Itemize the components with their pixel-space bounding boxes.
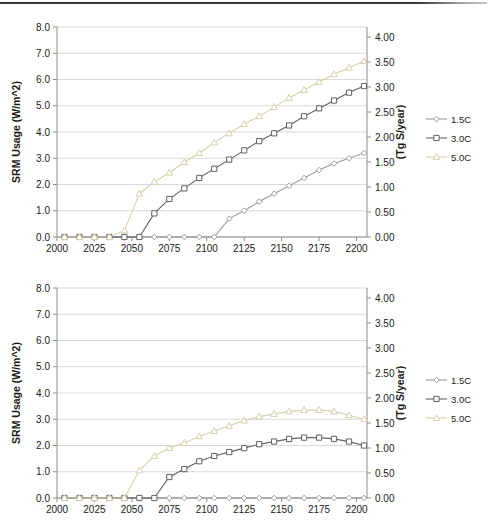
legend-label: 3.0C	[451, 133, 471, 144]
y-left-tick-label: 8.0	[36, 22, 50, 33]
y-left-tick-label: 2.0	[36, 440, 50, 451]
y-right-tick-label: 2.00	[375, 393, 395, 404]
y-left-tick-label: 3.0	[36, 414, 50, 425]
page: 0.01.02.03.04.05.06.07.08.00.000.501.001…	[0, 0, 488, 523]
x-tick-label: 2050	[121, 243, 144, 254]
y-axis-left: 0.01.02.03.04.05.06.07.08.0	[36, 283, 57, 504]
legend: 1.5C3.0C5.0C	[426, 114, 471, 163]
y-left-axis-title: SRM Usage (W/m^2)	[10, 81, 22, 183]
legend-item-1.5C: 1.5C	[426, 114, 471, 125]
legend-label: 5.0C	[451, 413, 471, 424]
series-1.5C	[62, 150, 367, 240]
legend-item-3.0C: 3.0C	[426, 394, 471, 405]
x-tick-label: 2175	[308, 243, 331, 254]
y-right-tick-label: 3.50	[375, 57, 395, 68]
y-right-tick-label: 3.00	[375, 82, 395, 93]
series-markers-1.5C	[62, 150, 367, 240]
y-right-tick-label: 2.50	[375, 368, 395, 379]
chart-srm-ramp-scenarios: 0.01.02.03.04.05.06.07.08.00.000.501.001…	[0, 14, 488, 262]
y-right-tick-label: 4.00	[375, 32, 395, 43]
x-tick-label: 2025	[83, 243, 106, 254]
page-top-rule	[0, 2, 487, 4]
y-right-tick-label: 1.50	[375, 418, 395, 429]
legend-item-5.0C: 5.0C	[426, 413, 471, 424]
gridlines	[57, 288, 367, 498]
y-left-tick-label: 8.0	[36, 283, 50, 294]
y-right-tick-label: 2.00	[375, 132, 395, 143]
y-axis-right: 0.000.501.001.502.002.503.003.504.00	[367, 32, 395, 243]
y-right-tick-label: 0.00	[375, 493, 395, 504]
legend-label: 3.0C	[451, 394, 471, 405]
y-right-tick-label: 4.00	[375, 293, 395, 304]
x-tick-label: 2025	[83, 504, 106, 515]
y-right-axis-title: (Tg S/year)	[394, 105, 406, 159]
x-tick-label: 2150	[271, 243, 294, 254]
y-right-tick-label: 0.50	[375, 207, 395, 218]
y-left-tick-label: 5.0	[36, 100, 50, 111]
x-tick-label: 2075	[158, 243, 181, 254]
diamond-marker-icon	[434, 377, 440, 383]
legend-label: 5.0C	[451, 152, 471, 163]
legend-label: 1.5C	[451, 114, 471, 125]
y-left-tick-label: 2.0	[36, 179, 50, 190]
chart-srm-peak-decline-scenarios: 0.01.02.03.04.05.06.07.08.00.000.501.001…	[0, 275, 488, 523]
chart-canvas: 0.01.02.03.04.05.06.07.08.00.000.501.001…	[0, 275, 488, 523]
x-tick-label: 2125	[233, 504, 256, 515]
y-right-tick-label: 1.50	[375, 157, 395, 168]
y-left-tick-label: 6.0	[36, 74, 50, 85]
chart-canvas: 0.01.02.03.04.05.06.07.08.00.000.501.001…	[0, 14, 488, 262]
y-left-tick-label: 0.0	[36, 232, 50, 243]
y-axis-left: 0.01.02.03.04.05.06.07.08.0	[36, 22, 57, 243]
y-left-axis-title: SRM Usage (W/m^2)	[10, 342, 22, 444]
y-left-tick-label: 1.0	[36, 205, 50, 216]
y-left-tick-label: 3.0	[36, 153, 50, 164]
y-left-tick-label: 5.0	[36, 361, 50, 372]
y-right-axis-title: (Tg S/year)	[394, 366, 406, 420]
x-tick-label: 2050	[121, 504, 144, 515]
x-tick-label: 2150	[271, 504, 294, 515]
y-right-tick-label: 1.00	[375, 182, 395, 193]
square-marker-icon	[434, 396, 439, 401]
square-marker-icon	[434, 135, 439, 140]
x-tick-label: 2000	[46, 243, 69, 254]
y-left-tick-label: 6.0	[36, 335, 50, 346]
y-right-tick-label: 1.00	[375, 443, 395, 454]
legend: 1.5C3.0C5.0C	[426, 375, 471, 424]
y-left-tick-label: 0.0	[36, 493, 50, 504]
x-tick-label: 2200	[345, 243, 368, 254]
y-right-tick-label: 0.00	[375, 232, 395, 243]
y-left-tick-label: 1.0	[36, 466, 50, 477]
series-markers-3.0C	[62, 83, 367, 239]
series-3.0C	[62, 83, 367, 239]
x-tick-label: 2075	[158, 504, 181, 515]
y-left-tick-label: 4.0	[36, 127, 50, 138]
y-left-tick-label: 7.0	[36, 48, 50, 59]
x-tick-label: 2125	[233, 243, 256, 254]
x-tick-label: 2000	[46, 504, 69, 515]
x-tick-label: 2200	[345, 504, 368, 515]
y-left-tick-label: 7.0	[36, 309, 50, 320]
legend-item-3.0C: 3.0C	[426, 133, 471, 144]
x-tick-label: 2100	[196, 243, 219, 254]
legend-item-1.5C: 1.5C	[426, 375, 471, 386]
series-3.0C	[62, 435, 367, 501]
series-markers-3.0C	[62, 435, 367, 501]
series-5.0C	[61, 58, 367, 240]
y-right-tick-label: 0.50	[375, 468, 395, 479]
series-line-3.0C	[65, 438, 365, 498]
x-tick-label: 2175	[308, 504, 331, 515]
series-markers-5.0C	[61, 58, 367, 240]
y-right-tick-label: 2.50	[375, 107, 395, 118]
x-tick-label: 2100	[196, 504, 219, 515]
gridlines	[57, 27, 367, 237]
y-axis-right: 0.000.501.001.502.002.503.003.504.00	[367, 293, 395, 504]
y-left-tick-label: 4.0	[36, 388, 50, 399]
diamond-marker-icon	[434, 116, 440, 122]
legend-item-5.0C: 5.0C	[426, 152, 471, 163]
legend-label: 1.5C	[451, 375, 471, 386]
y-right-tick-label: 3.00	[375, 343, 395, 354]
series-line-1.5C	[65, 153, 365, 237]
y-right-tick-label: 3.50	[375, 318, 395, 329]
